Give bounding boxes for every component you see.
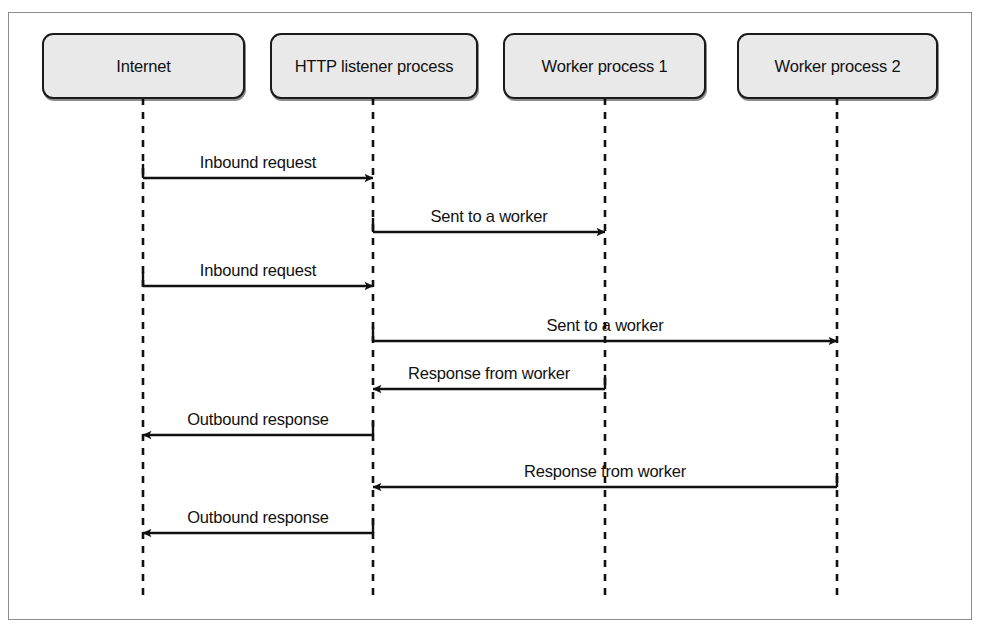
participant-label: Internet [116, 57, 170, 76]
message-label-2: Sent to a worker [431, 207, 548, 226]
message-label-4: Sent to a worker [547, 316, 664, 335]
message-label-8: Outbound response [187, 508, 329, 527]
message-label-5: Response from worker [408, 364, 570, 383]
message-label-1: Inbound request [200, 153, 316, 172]
message-label-6: Outbound response [187, 410, 329, 429]
participant-box-http_listener: HTTP listener process [270, 33, 478, 99]
diagram-canvas: InternetHTTP listener processWorker proc… [0, 0, 981, 627]
participant-label: Worker process 2 [775, 57, 901, 76]
participant-box-internet: Internet [42, 33, 245, 99]
participant-box-worker1: Worker process 1 [503, 33, 706, 99]
message-label-3: Inbound request [200, 261, 316, 280]
participant-label: Worker process 1 [542, 57, 668, 76]
message-label-7: Response from worker [524, 462, 686, 481]
participant-box-worker2: Worker process 2 [737, 33, 938, 99]
participant-label: HTTP listener process [295, 57, 454, 76]
